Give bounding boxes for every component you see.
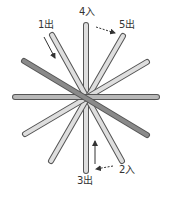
label-1-out: 1出: [38, 20, 54, 30]
label-3-out: 3出: [77, 176, 93, 186]
arrow-2-to-3-icon: [96, 166, 113, 169]
arrow-4-to-5-icon: [96, 27, 115, 33]
star-sticks-diagram: [0, 0, 173, 197]
label-4-in: 4入: [79, 7, 95, 17]
label-5-out: 5出: [119, 20, 135, 30]
label-2-in: 2入: [119, 165, 135, 175]
sticks-group: [15, 25, 157, 171]
